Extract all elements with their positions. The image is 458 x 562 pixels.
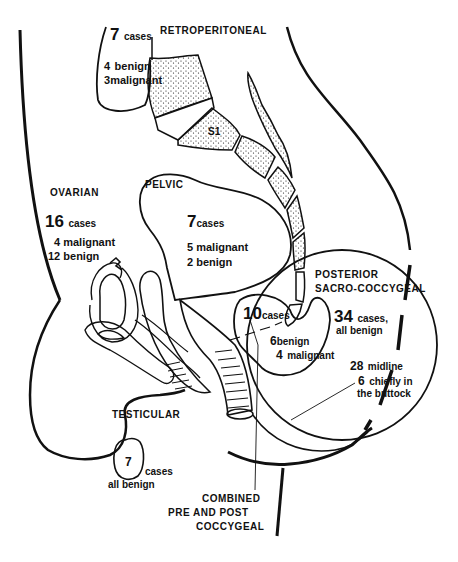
combined-title-line2: PRE AND POST <box>168 508 249 518</box>
ovarian-malignant: 4 malignant <box>54 237 115 248</box>
ovarian-benign: 12 benign <box>48 251 99 262</box>
pelvic-count: 7cases <box>187 213 224 230</box>
combined-count-number: 10 <box>243 304 262 323</box>
combined-title-line3: COCCYGEAL <box>196 522 264 532</box>
ovarian-count: 16 cases <box>45 213 96 230</box>
posterior-back-outline <box>287 27 410 250</box>
buttock-leader-line <box>291 383 355 420</box>
posterior-midline-label: midline <box>368 361 403 372</box>
pelvic-mass-outline <box>140 174 291 300</box>
testicular-count-number: 7 <box>125 456 132 468</box>
combined-malignant: 4 malignant <box>276 346 334 362</box>
perineum-outline <box>30 300 185 459</box>
sacral-vertebra-s5 <box>293 233 305 270</box>
posterior-midline-count: 28 <box>350 359 363 373</box>
pelvic-malignant: 5 malignant <box>187 242 248 253</box>
retroperitoneal-malignant-label: malignant <box>110 74 162 86</box>
combined-count-unit: cases <box>262 310 290 321</box>
sacrococcygeal-teratoma-distribution-diagram: RETROPERITONEAL 7 cases 4 benign 3malign… <box>0 0 458 562</box>
combined-malignant-count: 4 <box>276 348 283 362</box>
pelvic-title: PELVIC <box>145 180 183 190</box>
posterior-midline: 28 midline <box>350 357 403 373</box>
posterior-count: 34 cases, <box>334 308 388 325</box>
posterior-buttock: 6 chiefly in <box>358 372 413 388</box>
posterior-title-line1: POSTERIOR <box>315 270 378 280</box>
retroperitoneal-count-number: 7 <box>110 25 119 44</box>
rectum-outline <box>180 300 252 415</box>
posterior-count-number: 34 <box>334 307 353 326</box>
posterior-all-benign: all benign <box>336 326 383 336</box>
pelvic-count-unit: cases <box>196 218 224 229</box>
vertebra-s1-label: S1 <box>208 127 220 137</box>
retroperitoneal-count: 7 cases <box>110 26 152 43</box>
ovary-outline <box>100 274 126 329</box>
coccyx-segment <box>296 272 305 302</box>
testicular-all-benign: all benign <box>108 480 155 490</box>
anatomical-line-art <box>0 0 458 562</box>
retroperitoneal-title: RETROPERITONEAL <box>160 26 267 36</box>
posterior-buttock-label-line2: the buttock <box>357 389 411 399</box>
sacral-vertebra-s2 <box>235 136 275 178</box>
combined-count: 10cases <box>243 305 290 322</box>
combined-title-line1: COMBINED <box>202 494 260 504</box>
testicular-title: TESTICULAR <box>112 410 180 420</box>
ovarian-count-unit: cases <box>68 218 96 229</box>
vaginal-canal-inner <box>142 315 188 352</box>
posterior-buttock-label: chiefly in <box>369 376 412 387</box>
gluteal-skin-line <box>228 428 372 465</box>
posterior-title-line2: SACRO-COCCYGEAL <box>315 284 426 294</box>
posterior-count-unit: cases, <box>357 313 388 324</box>
fimbriae <box>110 258 122 270</box>
ovarian-title: OVARIAN <box>50 188 99 198</box>
retroperitoneal-malignant: 3malignant <box>104 71 162 87</box>
pelvic-benign: 2 benign <box>187 257 232 268</box>
retroperitoneal-count-unit: cases <box>124 31 152 42</box>
ovarian-count-number: 16 <box>45 212 64 231</box>
thigh-outline <box>277 468 283 536</box>
combined-malignant-label: malignant <box>287 350 334 361</box>
testicular-count-unit: cases <box>145 467 173 477</box>
posterior-buttock-count: 6 <box>358 374 365 388</box>
